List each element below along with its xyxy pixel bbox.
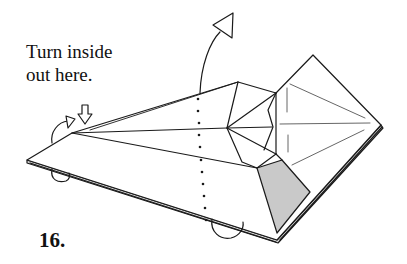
model-body [27,55,381,240]
hollow-down-arrow-icon [78,105,92,124]
curved-arrow-with-triangle-head-icon [200,13,233,93]
origami-diagram [0,0,407,264]
